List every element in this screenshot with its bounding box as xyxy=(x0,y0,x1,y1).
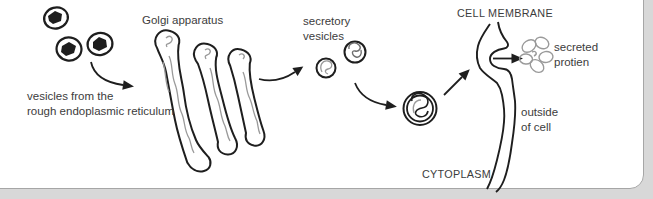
arrow-golgi-to-vesicles-icon xyxy=(259,67,303,81)
rer-vesicles-label-line2: rough endoplasmic reticulum xyxy=(27,104,174,119)
golgi-apparatus-label: Golgi apparatus xyxy=(142,13,223,28)
secretory-vesicles-label-line1: secretory xyxy=(303,14,350,29)
rer-vesicles-icon xyxy=(42,5,115,63)
secretory-vesicles-label: secretory vesicles xyxy=(303,14,350,44)
arrow-rer-to-golgi-icon xyxy=(91,62,134,90)
arrow-to-fusion-site-icon xyxy=(444,69,470,95)
outside-of-cell-label-line1: outside xyxy=(521,105,558,120)
cytoplasm-label: CYTOPLASM xyxy=(422,167,491,182)
secreted-protein-label-line2: protien xyxy=(554,55,598,70)
arrow-secretion-icon xyxy=(493,54,523,64)
rer-vesicles-label: vesicles from the rough endoplasmic reti… xyxy=(27,89,174,119)
secretory-vesicles-icon xyxy=(317,42,366,78)
cell-membrane-label: CELL MEMBRANE xyxy=(457,6,553,21)
diagram-stage: vesicles from the rough endoplasmic reti… xyxy=(0,0,653,199)
outside-of-cell-label-line2: of cell xyxy=(521,120,558,135)
secreted-protein-label-line1: secreted xyxy=(554,40,598,55)
secretory-vesicles-label-line2: vesicles xyxy=(303,29,350,44)
fusing-vesicle-icon xyxy=(404,92,437,125)
secreted-protein-icon xyxy=(519,35,554,75)
secreted-protein-label: secreted protien xyxy=(554,40,598,70)
arrow-vesicles-to-membrane-icon xyxy=(355,83,397,110)
outside-of-cell-label: outside of cell xyxy=(521,105,558,135)
rer-vesicles-label-line1: vesicles from the xyxy=(27,89,174,104)
